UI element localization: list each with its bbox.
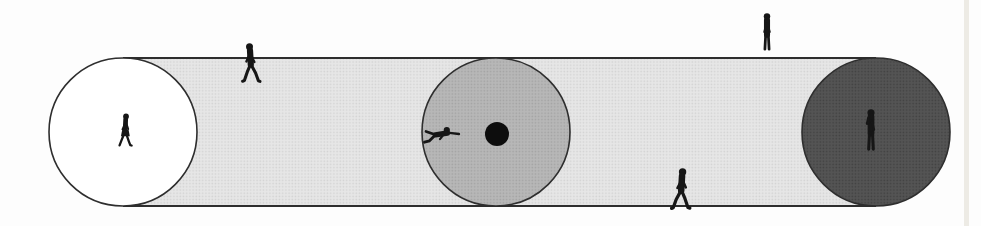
page-edge-strip bbox=[964, 0, 969, 226]
target-dot bbox=[485, 122, 509, 146]
paths-and-goals-illustration bbox=[0, 0, 981, 226]
stander-above-top-edge bbox=[764, 13, 770, 49]
book-figure-page bbox=[0, 0, 981, 226]
right-goal-circle bbox=[802, 58, 950, 206]
